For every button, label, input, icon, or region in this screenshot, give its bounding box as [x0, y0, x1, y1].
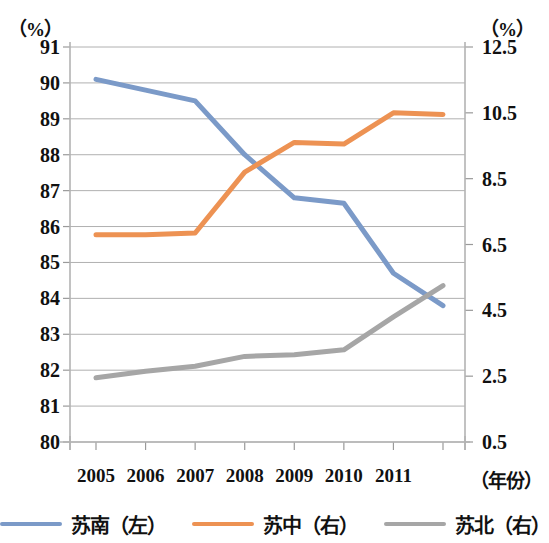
- right-axis-tick-label: 2.5: [482, 366, 542, 386]
- chart-legend: 苏南（左）苏中（右）苏北（右）: [0, 505, 549, 543]
- legend-label: 苏中（右）: [263, 510, 358, 539]
- legend-swatch-icon: [384, 522, 446, 526]
- left-axis-tick-label: 88: [12, 145, 60, 165]
- x-axis-tick-label: 2005: [69, 466, 123, 485]
- right-axis-ticks: [465, 47, 473, 442]
- right-axis-tick-label: 4.5: [482, 300, 542, 320]
- gridlines: [70, 47, 465, 442]
- left-axis-tick-label: 82: [12, 360, 60, 380]
- right-axis-tick-label: 12.5: [482, 37, 542, 57]
- x-axis-tick-label: 2011: [366, 466, 420, 485]
- x-axis-ticks: [70, 436, 465, 450]
- left-axis-tick-label: 81: [12, 396, 60, 416]
- line-chart: （%） （%） 919089888786858483828180 12.510.…: [0, 0, 549, 543]
- legend-item-3[interactable]: 苏北（右）: [384, 510, 549, 539]
- x-axis-tick-label: 2008: [218, 466, 272, 485]
- x-axis-tick-label: 2006: [119, 466, 173, 485]
- right-axis-tick-label: 10.5: [482, 103, 542, 123]
- left-axis-ticks: [63, 47, 70, 442]
- series-line-right: [96, 286, 443, 378]
- left-axis-tick-label: 83: [12, 324, 60, 344]
- left-axis-tick-label: 85: [12, 252, 60, 272]
- legend-item-1[interactable]: 苏南（左）: [0, 510, 166, 539]
- right-axis-tick-label: 6.5: [482, 235, 542, 255]
- x-axis-caption: （年份）: [470, 466, 542, 493]
- left-axis-tick-label: 87: [12, 181, 60, 201]
- x-axis-tick-label: 2009: [267, 466, 321, 485]
- left-axis-tick-label: 90: [12, 73, 60, 93]
- left-axis-tick-label: 84: [12, 288, 60, 308]
- legend-item-2[interactable]: 苏中（右）: [192, 510, 358, 539]
- legend-swatch-icon: [0, 522, 62, 526]
- right-axis-tick-label: 8.5: [482, 169, 542, 189]
- left-axis-tick-label: 91: [12, 37, 60, 57]
- x-axis-tick-label: 2010: [317, 466, 371, 485]
- x-axis-tick-label: 2007: [168, 466, 222, 485]
- left-axis-tick-label: 89: [12, 109, 60, 129]
- right-axis-tick-label: 0.5: [482, 432, 542, 452]
- legend-label: 苏南（左）: [71, 510, 166, 539]
- legend-label: 苏北（右）: [455, 510, 549, 539]
- left-axis-tick-label: 86: [12, 217, 60, 237]
- legend-swatch-icon: [192, 522, 254, 526]
- left-axis-tick-label: 80: [12, 432, 60, 452]
- series-lines: [96, 79, 443, 377]
- plot-area: [0, 0, 549, 543]
